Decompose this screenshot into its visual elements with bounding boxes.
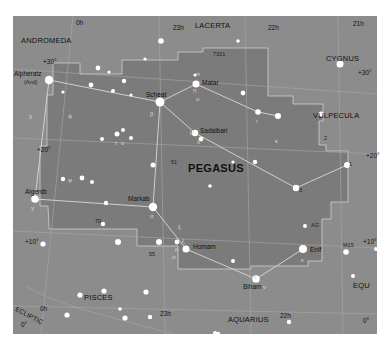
- greek-alpha: α: [150, 213, 153, 219]
- greek-eta: η: [193, 87, 196, 93]
- star-alpheratz: Alpheratz: [14, 71, 41, 78]
- greek-xi: ξ: [178, 224, 181, 230]
- star-chart: ANDROMEDA LACERTA CYGNUS VULPECULA EQU A…: [13, 16, 377, 334]
- label-pegasus: PEGASUS: [188, 163, 244, 174]
- star-alpheratz-alt: (And): [24, 80, 37, 86]
- greek-gamma: γ: [31, 205, 34, 211]
- label-cygnus: CYGNUS: [326, 55, 359, 63]
- m15-label: M15: [343, 243, 354, 249]
- label-pisces: PISCES: [84, 294, 113, 302]
- ra-label-21h-top: 21h: [353, 21, 364, 28]
- greek-sigma: σ: [172, 254, 176, 260]
- dec-label-30-left: +30°: [43, 59, 57, 66]
- ra-label-23h-top: 23h: [173, 25, 184, 32]
- greek-tau: τ: [115, 140, 117, 146]
- label-aquarius: AQUARIUS: [228, 316, 269, 324]
- ra-label-23h-bottom: 23h: [160, 311, 171, 318]
- star-sadalbari: Sadalbari: [200, 128, 227, 135]
- star-51: 51: [171, 160, 177, 166]
- dec-label-0-left: 0°: [21, 322, 27, 329]
- greek-zeta: ζ: [182, 238, 185, 244]
- star-algenib: Algenib: [25, 189, 47, 196]
- greek-beta: β: [150, 111, 153, 117]
- star-biham: Biham: [243, 284, 261, 291]
- star-homam: Homam: [193, 244, 216, 251]
- dec-label-30-right: +30°: [358, 70, 372, 77]
- star-scheat: Scheat: [146, 92, 166, 99]
- star-markab: Markab: [128, 196, 150, 203]
- dec-label-10-left: +10°: [25, 239, 39, 246]
- greek-psi: ψ: [68, 113, 72, 119]
- label-vulpecula: VULPECULA: [313, 112, 359, 120]
- star-matar: Matar: [202, 80, 219, 87]
- ra-label-0h-bottom: 0h: [40, 306, 47, 313]
- greek-rho: ρ: [175, 246, 178, 252]
- label-andromeda: ANDROMEDA: [21, 37, 72, 45]
- star-1: 1: [349, 162, 352, 168]
- greek-nu: ν: [263, 284, 266, 290]
- greek-mu: μ: [190, 129, 193, 135]
- dec-label-20-right: +20°: [366, 153, 380, 160]
- star-55: 55: [149, 252, 155, 258]
- dec-label-0-right: 0°: [363, 318, 369, 325]
- ra-label-22h-top: 22h: [268, 25, 279, 32]
- greek-epsilon: ε: [301, 257, 304, 263]
- greek-phi: φ: [68, 177, 72, 183]
- ngc-7331: 7331: [213, 52, 225, 58]
- greek-omicron: ο: [196, 96, 199, 102]
- dec-label-10-right: +10°: [363, 239, 377, 246]
- ag-label: AG: [311, 223, 319, 229]
- label-equ: EQU: [353, 282, 370, 290]
- ra-label-22h-bottom: 22h: [280, 313, 291, 320]
- star-2: 2: [324, 136, 327, 142]
- greek-lambda: λ: [197, 139, 200, 145]
- label-lacerta: LACERTA: [195, 22, 230, 30]
- greek-theta: θ: [253, 274, 256, 280]
- chart-graphics: [13, 16, 377, 334]
- star-enif: Enif: [310, 247, 321, 254]
- greek-upsilon: υ: [121, 140, 124, 146]
- ra-label-0h-top: 0h: [76, 20, 83, 27]
- greek-iota: ι: [256, 118, 257, 124]
- greek-chi: χ: [29, 113, 32, 119]
- dec-label-20-left: +20°: [37, 147, 51, 154]
- greek-kappa: κ: [275, 138, 278, 144]
- star-70: 70: [95, 219, 101, 225]
- star-3: 3: [299, 188, 302, 194]
- greek-pi: π: [196, 71, 200, 77]
